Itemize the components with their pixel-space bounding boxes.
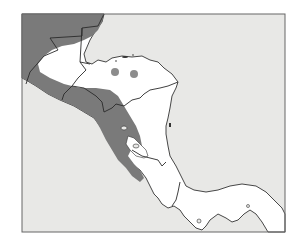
- island-pearl: [247, 205, 250, 208]
- lake: [133, 144, 139, 148]
- island-coiba: [197, 219, 201, 223]
- record-dot: [111, 68, 119, 76]
- lake-managua: [121, 126, 127, 130]
- bay-island: [122, 56, 128, 58]
- bay-island: [115, 60, 117, 62]
- bay-island: [132, 54, 134, 56]
- coastal-island: [169, 123, 171, 127]
- range-map: [0, 0, 303, 240]
- record-dot: [130, 70, 138, 78]
